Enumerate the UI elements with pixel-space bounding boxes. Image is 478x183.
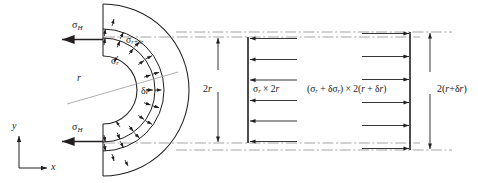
hoop-tick (116, 121, 120, 127)
sigma-h-bottom-subscript: H (77, 126, 82, 134)
sigma-r-arrow (138, 61, 144, 65)
sigma-r-arrow (129, 49, 133, 55)
dim2-suffix: ) (464, 83, 467, 94)
sigma-r-subscript: r (116, 59, 119, 66)
sigma-r-plus-dr-arrow (152, 106, 159, 108)
sigma-r-arrow (117, 41, 120, 48)
force-right-close2: ) (383, 84, 386, 94)
force-right-plus2: + (365, 84, 375, 94)
label-radius-r: r (77, 73, 81, 83)
figure-thick-cylinder-radial-equilibrium: σH σH σr+δr σr r δr 2r 2(r+δr) σr × 2r (… (0, 0, 478, 183)
sigma-r-plus-dr-arrow (134, 133, 139, 138)
sigma-r-arrow (104, 38, 105, 45)
label-sigma-r: σr (111, 57, 119, 67)
force-right-plus: + (318, 84, 328, 94)
label-sigma-h-top: σH (72, 20, 82, 32)
sigma-h-top-subscript: H (77, 24, 82, 32)
sigma-r-arrow (129, 126, 133, 132)
label-axis-x: x (51, 162, 55, 172)
delta-r-variable: r (146, 85, 150, 96)
sigma-r-plus-dr-arrow (120, 32, 123, 38)
sigma-r-arrow (138, 115, 144, 119)
force-right-close: ) × 2( (340, 84, 361, 94)
label-dimension-2r-plus-dr: 2(r+δr) (437, 84, 467, 94)
sigma-r-plus-dr-arrow (145, 121, 152, 125)
sigma-r-arrow (144, 75, 151, 77)
force-left-times: × 2 (261, 84, 276, 94)
sigma-r-arrow (104, 135, 105, 142)
hoop-tick (112, 154, 114, 161)
coordinate-axes (19, 136, 47, 168)
hoop-tick (112, 19, 114, 26)
dimension-2r-variable: r (208, 83, 212, 94)
radius-construction-line (67, 72, 178, 104)
sigma-r-plus-dr-subscript: r+δr (131, 38, 143, 45)
sigma-r-plus-dr-arrow (104, 29, 105, 36)
label-dimension-2r: 2r (203, 84, 212, 94)
label-axis-y: y (12, 121, 16, 131)
hoop-tick (125, 160, 128, 166)
force-left-variable: r (276, 84, 280, 94)
sigma-r-plus-dr-arrow (152, 72, 159, 74)
sigma-r-plus-dr-arrow (145, 56, 152, 60)
sigma-r-arrow (117, 133, 120, 140)
sigma-h-arrow-group (62, 40, 103, 142)
sigma-r-arrow (144, 103, 151, 105)
sigma-r-plus-dr-arrow (120, 141, 123, 147)
label-sigma-r-plus-dr: σr+δr (126, 36, 144, 46)
label-sigma-h-bottom: σH (72, 122, 82, 134)
label-force-inner: σr × 2r (253, 85, 279, 95)
label-force-outer: (σr + δσr) × 2(r + δr) (307, 85, 386, 95)
cylinder-bore-profile (103, 56, 137, 124)
label-thickness-delta-r: δr (141, 86, 150, 96)
sigma-r-plus-dr-arrow (104, 144, 105, 151)
